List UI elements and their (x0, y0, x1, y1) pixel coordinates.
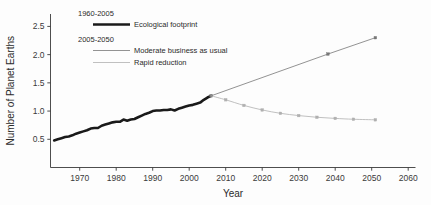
x-axis-title: Year (223, 188, 244, 199)
data-point-marker (297, 114, 300, 117)
data-point-marker (243, 104, 246, 107)
y-axis-tick-label: 0.5 (33, 134, 45, 144)
data-point-marker (374, 36, 377, 39)
x-axis-tick-label: 2040 (326, 173, 345, 183)
x-axis-tick-label: 1970 (70, 173, 89, 183)
legend-group-header: 1960-2005 (78, 9, 114, 18)
data-point-marker (316, 116, 319, 119)
x-axis-tick-label: 2060 (399, 173, 418, 183)
legend-entry-label: Moderate business as usual (134, 46, 228, 55)
data-point-marker (224, 98, 227, 101)
x-axis-tick-label: 2030 (289, 173, 308, 183)
y-axis-tick-label: 1.5 (33, 78, 45, 88)
y-axis-title: Number of Planet Earths (5, 36, 16, 146)
y-axis-tick-label: 2.0 (33, 50, 45, 60)
x-axis-tick-label: 1980 (107, 173, 126, 183)
x-axis-tick-label: 1990 (143, 173, 162, 183)
x-axis-tick-label: 2050 (362, 173, 381, 183)
data-point-marker (352, 118, 355, 121)
chart-canvas: 1960-2005Ecological footprint2005-2050Mo… (0, 0, 431, 205)
data-point-marker (261, 109, 264, 112)
data-point-marker (374, 119, 377, 122)
legend-entry-label: Ecological footprint (134, 20, 198, 29)
data-point-marker (279, 112, 282, 115)
legend-group-header: 2005-2050 (78, 35, 114, 44)
legend-entry-label: Rapid reduction (134, 58, 187, 67)
data-point-marker (327, 53, 330, 56)
x-axis-tick-label: 2010 (216, 173, 235, 183)
y-axis-tick-label: 1.0 (33, 106, 45, 116)
ecological-footprint-chart: 1960-2005Ecological footprint2005-2050Mo… (0, 0, 431, 205)
x-axis-tick-label: 2000 (180, 173, 199, 183)
x-axis-tick-label: 2020 (253, 173, 272, 183)
data-point-marker (334, 117, 337, 120)
y-axis-tick-label: 2.5 (33, 21, 45, 31)
